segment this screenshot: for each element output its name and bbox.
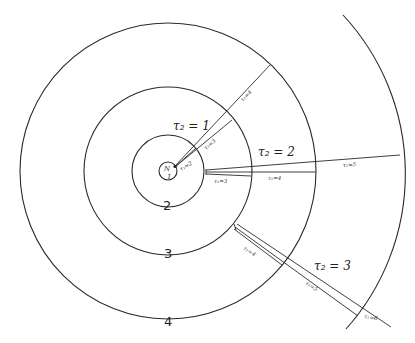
ray-label-g2-t4: τ₁=4 bbox=[268, 175, 282, 181]
ring-4-label: 4 bbox=[164, 314, 172, 329]
ray-label-g3-t6: τ₁=6 bbox=[364, 313, 379, 321]
ray-group-tau2-3 bbox=[234, 224, 391, 327]
ring-2-label: 2 bbox=[163, 198, 171, 213]
ray-label-g3-t5: τ₁=5 bbox=[304, 280, 319, 293]
region-label-tau2-1: τ₂ = 1 bbox=[173, 119, 210, 133]
outer-arc bbox=[343, 15, 405, 329]
ray-group-tau2-1 bbox=[173, 65, 270, 168]
concentric-rings-diagram: 2 3 4 N 1 τ₂ = 1 τ₂ = 2 τ₂ = 3 τ₁=2 τ₁=3… bbox=[0, 0, 415, 343]
ray-label-g2-t3: τ₁=3 bbox=[214, 178, 228, 184]
region-label-tau2-3: τ₂ = 3 bbox=[314, 259, 351, 273]
region-label-tau2-2: τ₂ = 2 bbox=[258, 145, 295, 159]
ray-label-g3-t4: τ₁=4 bbox=[242, 245, 257, 258]
ring-3-label: 3 bbox=[164, 246, 172, 261]
ray-group-tau2-2 bbox=[206, 155, 400, 176]
ray-label-g2-t5: τ₁=5 bbox=[343, 161, 357, 168]
core-label-1: 1 bbox=[167, 173, 171, 181]
ray-label-g1-t4: τ₁=4 bbox=[239, 88, 253, 102]
core-label-n: N bbox=[163, 165, 171, 173]
ray-label-g1-t3: τ₁=3 bbox=[203, 137, 217, 151]
